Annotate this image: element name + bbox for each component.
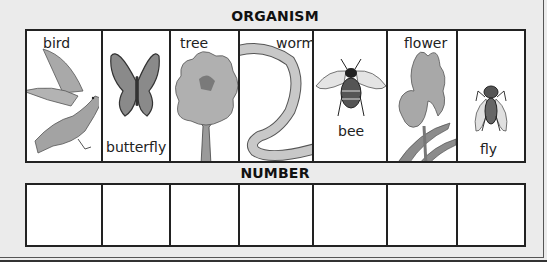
worm-icon <box>240 31 314 161</box>
organism-cell-fly: fly <box>458 31 524 161</box>
organism-cell-tree: tree <box>171 31 240 161</box>
bird-icon <box>27 31 99 161</box>
organism-cell-flower: flower <box>388 31 458 161</box>
number-row <box>25 183 526 247</box>
organism-label: fly <box>480 141 497 157</box>
number-box-tree[interactable] <box>171 185 240 245</box>
organism-label: bee <box>338 123 364 139</box>
number-heading: NUMBER <box>25 165 525 181</box>
organism-cell-bee: bee <box>314 31 388 161</box>
number-box-bee[interactable] <box>314 185 388 245</box>
organism-row: bird butterfly tree worm <box>25 29 526 163</box>
organism-cell-butterfly: butterfly <box>103 31 171 161</box>
organism-label: butterfly <box>106 139 166 155</box>
number-box-flower[interactable] <box>388 185 458 245</box>
number-box-fly[interactable] <box>458 185 524 245</box>
number-box-bird[interactable] <box>27 185 103 245</box>
number-box-butterfly[interactable] <box>103 185 171 245</box>
organism-heading: ORGANISM <box>25 8 525 24</box>
page-edge-right <box>543 0 544 258</box>
page-edge-bottom <box>0 257 544 258</box>
organism-cell-worm: worm <box>240 31 314 161</box>
bee-icon <box>314 31 388 161</box>
organism-cell-bird: bird <box>27 31 103 161</box>
flower-icon <box>388 31 458 161</box>
number-box-worm[interactable] <box>240 185 314 245</box>
tree-icon <box>171 31 240 161</box>
